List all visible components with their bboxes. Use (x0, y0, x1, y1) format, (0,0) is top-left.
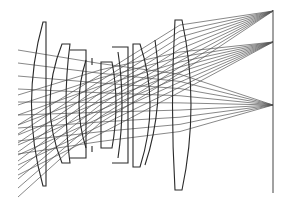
ray (18, 11, 273, 143)
lens-ray-diagram (0, 0, 285, 206)
ray (18, 11, 273, 188)
ray (18, 11, 273, 152)
ray (18, 42, 273, 145)
rays (18, 11, 273, 197)
lens-4 (101, 62, 116, 148)
